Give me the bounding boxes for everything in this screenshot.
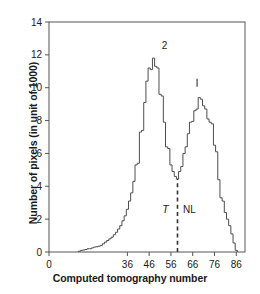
- y-tick-label: 14: [31, 17, 43, 28]
- x-tick-label: 86: [231, 259, 243, 270]
- x-tick-label: 0: [46, 259, 52, 270]
- x-axis-title: Computed tomography number: [0, 272, 260, 284]
- x-tick-label: 56: [165, 259, 177, 270]
- left-peak-label: 2: [162, 40, 168, 51]
- chart-canvas: 02468101214 0364656667686 2 T NL: [0, 0, 260, 294]
- x-tick-label: 36: [122, 259, 134, 270]
- y-axis-title: Number of pixels (in unit of 1000): [27, 28, 39, 258]
- x-tick-label: 76: [209, 259, 221, 270]
- normal-liver-region-label: NL: [183, 204, 196, 215]
- histogram-figure: 02468101214 0364656667686 2 T NL Number …: [0, 0, 260, 294]
- x-tick-label: 66: [187, 259, 199, 270]
- x-tick-label: 46: [144, 259, 156, 270]
